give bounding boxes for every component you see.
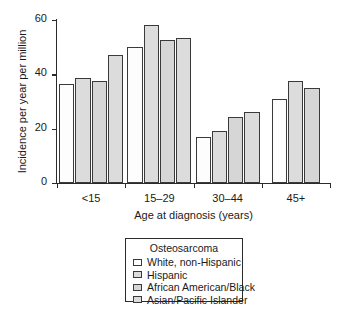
bar [288, 81, 303, 183]
bar [92, 81, 107, 183]
y-axis-title: Incidence per year per million [16, 17, 29, 187]
legend-title: Osteosarcoma [126, 242, 242, 255]
bar [212, 131, 227, 183]
bar [127, 47, 142, 183]
legend-item: Hispanic [126, 269, 242, 281]
legend-swatch-icon [133, 296, 142, 303]
x-axis-tick-mark [125, 183, 126, 188]
legend-swatch-icon [133, 259, 142, 266]
y-axis-tick-label: 20 [35, 122, 47, 133]
legend-items: White, non-HispanicHispanicAfrican Ameri… [126, 256, 242, 306]
legend-swatch-icon [133, 271, 142, 278]
legend-item-label: African American/Black [147, 281, 255, 293]
x-axis-category-label: 30–44 [212, 192, 243, 204]
bar [59, 84, 74, 183]
x-axis-tick-mark [194, 183, 195, 188]
y-axis-tick-label: 0 [41, 176, 47, 187]
plot-area [57, 20, 330, 183]
bar [108, 55, 123, 183]
bar [272, 99, 287, 183]
x-axis-category-label: 45+ [287, 192, 306, 204]
bar [196, 137, 211, 183]
osteosarcoma-incidence-bar-chart: 0204060 <1515–2930–4445+ Age at diagnosi… [0, 0, 342, 232]
bar [244, 112, 259, 183]
x-axis-tick-mark [57, 183, 58, 188]
x-axis-tick-mark [330, 183, 331, 188]
legend-item-label: Hispanic [147, 269, 187, 281]
x-axis-category-label: 15–29 [144, 192, 175, 204]
legend-swatch-icon [133, 284, 142, 291]
bar [176, 38, 191, 183]
bar [144, 25, 159, 183]
bar [228, 117, 243, 183]
bar [304, 88, 319, 183]
legend-item: White, non-Hispanic [126, 256, 242, 268]
legend-item: African American/Black [126, 281, 242, 293]
bar [160, 40, 175, 183]
legend: Osteosarcoma White, non-HispanicHispanic… [125, 238, 243, 302]
bar [75, 78, 90, 183]
legend-item-label: Asian/Pacific Islander [147, 294, 247, 306]
y-axis-tick-label: 40 [35, 67, 47, 78]
y-axis-tick-label: 60 [35, 13, 47, 24]
legend-item-label: White, non-Hispanic [147, 256, 241, 268]
x-axis-category-label: <15 [82, 192, 101, 204]
x-axis-tick-mark [262, 183, 263, 188]
legend-item: Asian/Pacific Islander [126, 294, 242, 306]
x-axis-title: Age at diagnosis (years) [57, 209, 330, 222]
